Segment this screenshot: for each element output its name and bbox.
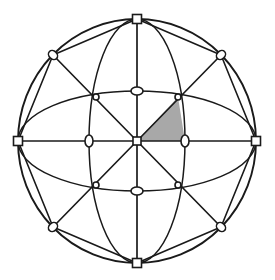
east-arc-crossing-marker bbox=[181, 135, 189, 147]
center-marker bbox=[133, 137, 141, 145]
chord-east-to-se-limb bbox=[221, 141, 256, 227]
chord-south-to-se-limb bbox=[137, 227, 221, 263]
south-pole-marker bbox=[133, 259, 142, 268]
west-arc-crossing-marker bbox=[85, 135, 93, 147]
north-pole-marker bbox=[133, 15, 142, 24]
north-arc-crossing-marker bbox=[131, 87, 143, 95]
southeast-inner-node bbox=[175, 182, 181, 188]
diagram-canvas bbox=[0, 0, 275, 280]
chord-west-to-sw-limb bbox=[18, 141, 53, 227]
chord-south-to-sw-limb bbox=[53, 227, 137, 263]
southwest-inner-node bbox=[93, 182, 99, 188]
west-point-marker bbox=[14, 137, 23, 146]
chord-west-to-nw-limb bbox=[18, 55, 53, 141]
chord-east-to-ne-limb bbox=[221, 55, 256, 141]
northwest-inner-node bbox=[93, 94, 99, 100]
south-arc-crossing-marker bbox=[131, 187, 143, 195]
east-point-marker bbox=[252, 137, 261, 146]
sphere-projection-figure bbox=[0, 0, 275, 280]
chord-north-to-nw-limb bbox=[53, 19, 137, 55]
chord-north-to-ne-limb bbox=[137, 19, 221, 55]
northeast-inner-node bbox=[175, 94, 181, 100]
